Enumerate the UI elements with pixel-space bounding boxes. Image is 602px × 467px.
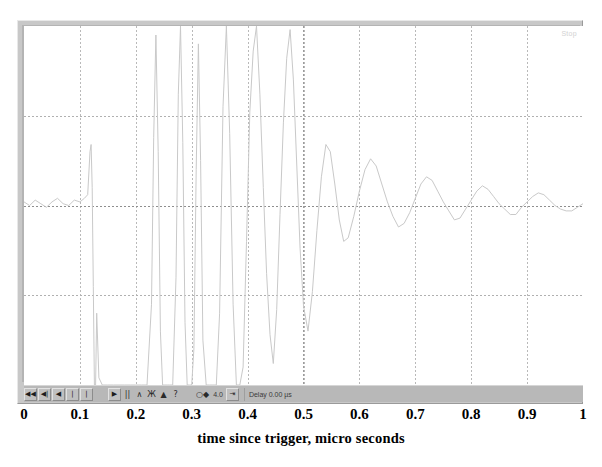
oscilloscope-figure: Stop ◀◀◀|◀|| ▶||∧Ж▲? ○◆ 4.0 ⇥ Delay 0.00… [0, 0, 602, 467]
help-icon[interactable]: ? [170, 388, 181, 401]
pause-button[interactable]: || [122, 388, 133, 401]
trigger-level-icon[interactable]: ▲ [158, 388, 169, 401]
x-axis-ticks: 00.10.20.30.40.50.60.70.80.91 [0, 406, 602, 428]
plot-area: Stop [24, 26, 583, 385]
x-tick-label: 0.1 [71, 406, 90, 423]
x-tick-label: 0.9 [518, 406, 537, 423]
toolbar-cursor-group: ○◆ [196, 388, 210, 401]
toolbar-spacer-2 [182, 388, 196, 401]
waveform-trace [24, 26, 583, 385]
x-tick-label: 0.3 [182, 406, 201, 423]
marker-a-button[interactable]: | [66, 388, 79, 401]
trigger-mode-icon[interactable]: Ж [146, 388, 157, 401]
x-axis-label: time since trigger, micro seconds [0, 430, 602, 447]
step-forward-button[interactable]: ▶ [108, 388, 121, 401]
rising-edge-icon[interactable]: ∧ [134, 388, 145, 401]
x-tick-label: 0.4 [238, 406, 257, 423]
skip-back-button[interactable]: ◀◀ [24, 388, 37, 401]
x-tick-label: 0.6 [350, 406, 369, 423]
x-axis-label-text: time since trigger, micro seconds [197, 430, 405, 446]
zoom-icon[interactable]: ⇥ [226, 388, 239, 401]
x-tick-label: 0.5 [294, 406, 313, 423]
x-tick-label: 1 [579, 406, 587, 423]
timebase-scale-value: 4.0 [213, 391, 223, 398]
step-back-button[interactable]: ◀| [38, 388, 51, 401]
toolbar-spacer-1 [94, 388, 108, 401]
x-tick-label: 0.8 [462, 406, 481, 423]
toolbar-trigger-group: ▶||∧Ж▲? [108, 388, 182, 401]
marker-b-button[interactable]: | [80, 388, 93, 401]
page-footer-artifact [60, 458, 540, 467]
scope-status-readout: Stop [561, 30, 577, 37]
x-tick-label: 0.7 [406, 406, 425, 423]
play-left-button[interactable]: ◀ [52, 388, 65, 401]
cursor-pair-icon[interactable]: ○◆ [196, 388, 209, 401]
toolbar-transport-group: ◀◀◀|◀|| [24, 388, 94, 401]
scope-toolbar[interactable]: ◀◀◀|◀|| ▶||∧Ж▲? ○◆ 4.0 ⇥ Delay 0.00 µs [24, 385, 583, 402]
x-tick-label: 0.2 [126, 406, 145, 423]
x-tick-label: 0 [20, 406, 28, 423]
delay-readout: Delay 0.00 µs [244, 388, 296, 401]
